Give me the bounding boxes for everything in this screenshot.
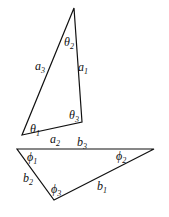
angle-label-theta3: θ3 <box>69 108 79 124</box>
side-label-b3: b3 <box>77 135 87 151</box>
triangle-diagram: a1a2a3θ1θ2θ3b1b2b3ϕ1ϕ2ϕ3 <box>0 0 169 217</box>
diagram-canvas: a1a2a3θ1θ2θ3b1b2b3ϕ1ϕ2ϕ3 <box>0 0 169 217</box>
side-label-a3: a3 <box>35 59 45 75</box>
side-label-a1: a1 <box>78 60 88 76</box>
angle-label-phi1: ϕ1 <box>27 150 37 166</box>
angle-label-theta2: θ2 <box>64 35 74 51</box>
triangle-b <box>17 149 154 200</box>
side-label-b1: b1 <box>97 179 107 195</box>
angle-label-theta1: θ1 <box>30 122 40 138</box>
side-label-b2: b2 <box>23 171 33 187</box>
side-label-a2: a2 <box>50 132 60 148</box>
angle-label-phi3: ϕ3 <box>51 182 61 198</box>
angle-label-phi2: ϕ2 <box>116 149 126 165</box>
